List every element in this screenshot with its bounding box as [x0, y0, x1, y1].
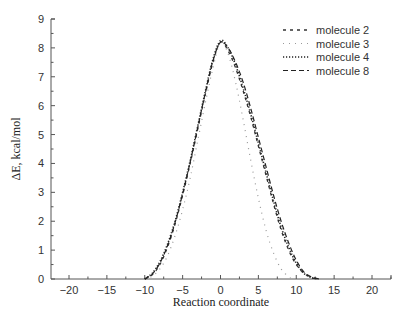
y-tick-label: 1 [38, 244, 44, 256]
y-tick-label: 9 [38, 13, 44, 25]
y-tick-label: 0 [38, 273, 44, 285]
y-axis-title: ΔE, kcal/mol [9, 117, 23, 181]
x-tick-label: −10 [135, 284, 154, 296]
y-tick-label: 6 [38, 100, 44, 112]
y-tick-label: 7 [38, 71, 44, 83]
energy-profile-chart: 0123456789−20−15−10−505101520 molecule 2… [0, 0, 408, 323]
x-axis-title: Reaction coordinate [173, 295, 269, 309]
series-layer [145, 40, 319, 279]
series-line-molecule-2 [145, 42, 318, 279]
y-tick-label: 2 [38, 215, 44, 227]
legend-label: molecule 3 [316, 38, 369, 50]
legend-label: molecule 8 [316, 65, 369, 77]
x-tick-label: −15 [98, 284, 117, 296]
series-line-molecule-4 [145, 40, 318, 279]
y-tick-label: 3 [38, 186, 44, 198]
series-line-molecule-3 [145, 42, 293, 279]
legend-label: molecule 2 [316, 24, 369, 36]
x-tick-label: −20 [60, 284, 79, 296]
legend: molecule 2molecule 3molecule 4molecule 8 [283, 24, 369, 77]
y-tick-label: 8 [38, 42, 44, 54]
legend-label: molecule 4 [316, 51, 369, 63]
x-tick-label: 20 [366, 284, 378, 296]
y-tick-label: 5 [38, 129, 44, 141]
x-tick-label: 15 [328, 284, 340, 296]
x-tick-label: 10 [290, 284, 302, 296]
series-line-molecule-8 [145, 42, 319, 279]
y-tick-label: 4 [38, 157, 44, 169]
